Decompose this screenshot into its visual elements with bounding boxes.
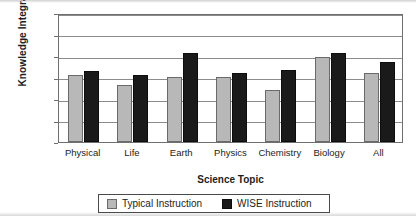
x-axis-category-label: Chemistry <box>255 147 304 158</box>
y-axis-tick-mark <box>54 36 58 37</box>
scan-artifact-top <box>0 0 416 3</box>
x-axis-category-label: Physics <box>206 147 255 158</box>
y-axis-tick-mark <box>54 143 58 144</box>
x-axis-category-label: Earth <box>157 147 206 158</box>
bar-typical-instruction <box>167 77 182 142</box>
y-axis-tick-mark <box>54 79 58 80</box>
bar-typical-instruction <box>315 57 330 142</box>
bar-group <box>108 15 157 142</box>
legend-swatch-wise-instruction <box>222 199 232 209</box>
y-axis-title: Knowledge Integration <box>17 0 28 106</box>
chart-legend: Typical Instruction WISE Instruction <box>98 194 330 213</box>
legend-label-typical-instruction: Typical Instruction <box>122 198 202 209</box>
x-axis-category-label: Physical <box>58 147 107 158</box>
bar-wise-instruction <box>183 53 198 142</box>
bar-wise-instruction <box>331 53 346 142</box>
y-axis-tick-mark <box>54 14 58 15</box>
legend-swatch-typical-instruction <box>107 199 117 209</box>
legend-item-typical-instruction: Typical Instruction <box>107 195 202 212</box>
bar-wise-instruction <box>380 62 395 142</box>
plot-area <box>58 14 403 143</box>
bar-group <box>355 15 404 142</box>
legend-label-wise-instruction: WISE Instruction <box>237 198 311 209</box>
y-axis-tick-mark <box>54 122 58 123</box>
bar-chart-figure: Knowledge Integration Science Topic Typi… <box>0 0 416 216</box>
bar-typical-instruction <box>117 85 132 142</box>
bar-wise-instruction <box>133 75 148 142</box>
x-axis-category-label: Life <box>107 147 156 158</box>
bar-typical-instruction <box>68 75 83 142</box>
x-axis-title: Science Topic <box>58 174 403 185</box>
bar-typical-instruction <box>364 73 379 142</box>
bar-typical-instruction <box>216 77 231 142</box>
x-axis-category-label: Biology <box>304 147 353 158</box>
x-axis-category-label: All <box>354 147 403 158</box>
bar-group <box>158 15 207 142</box>
bar-group <box>59 15 108 142</box>
bar-group <box>256 15 305 142</box>
bar-wise-instruction <box>84 71 99 142</box>
legend-item-wise-instruction: WISE Instruction <box>222 195 311 212</box>
y-axis-tick-mark <box>54 57 58 58</box>
bar-wise-instruction <box>281 70 296 142</box>
bar-typical-instruction <box>265 90 280 142</box>
bar-group <box>305 15 354 142</box>
bar-group <box>207 15 256 142</box>
y-axis-tick-mark <box>54 100 58 101</box>
bar-wise-instruction <box>232 73 247 142</box>
